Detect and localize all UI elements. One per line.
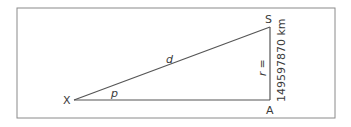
vertex-x-label: X <box>63 94 71 107</box>
side-r-value-group: 149597870 km <box>275 18 288 102</box>
vertex-a-label: A <box>266 104 274 117</box>
angle-p-label: p <box>110 87 118 100</box>
side-r-label: r = <box>256 60 268 76</box>
side-r-label-group: r = <box>256 60 268 76</box>
parallax-diagram: X S A d p r = 149597870 km <box>0 0 351 127</box>
hypotenuse-d-label: d <box>166 53 174 66</box>
vertex-s-label: S <box>265 13 272 26</box>
side-r-value: 149597870 km <box>275 18 288 102</box>
